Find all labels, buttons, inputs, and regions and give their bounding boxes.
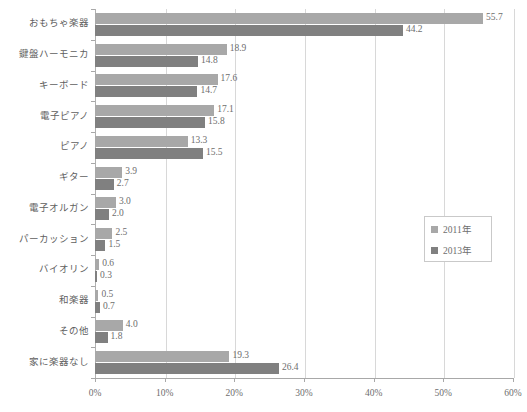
bar-value-label: 44.2 bbox=[406, 24, 423, 35]
x-axis-tick bbox=[374, 378, 375, 382]
x-axis-tick-label: 40% bbox=[354, 388, 394, 398]
bar-value-label: 17.1 bbox=[217, 104, 234, 115]
category-axis-tick bbox=[91, 347, 95, 348]
bar-value-label: 2.0 bbox=[112, 208, 124, 219]
gridline bbox=[235, 9, 236, 378]
category-label: 鍵盤ハーモニカ bbox=[1, 49, 89, 60]
x-axis-tick bbox=[304, 378, 305, 382]
bar-2011 bbox=[95, 197, 116, 208]
category-axis-tick bbox=[91, 163, 95, 164]
x-axis-tick-label: 10% bbox=[145, 388, 185, 398]
category-axis-tick bbox=[91, 317, 95, 318]
category-label: キーボード bbox=[1, 80, 89, 91]
category-label: 家に楽器なし bbox=[1, 357, 89, 368]
bar-value-label: 1.5 bbox=[108, 239, 120, 250]
x-axis-tick-label: 60% bbox=[493, 388, 527, 398]
x-axis-tick bbox=[513, 378, 514, 382]
bar-value-label: 0.3 bbox=[100, 270, 112, 281]
bar-2013 bbox=[95, 56, 198, 67]
bar-value-label: 2.7 bbox=[117, 178, 129, 189]
gridline bbox=[305, 9, 306, 378]
bar-value-label: 15.8 bbox=[208, 116, 225, 127]
bar-value-label: 13.3 bbox=[191, 135, 208, 146]
x-axis-tick bbox=[443, 378, 444, 382]
bar-value-label: 2.5 bbox=[115, 227, 127, 238]
bar-2013 bbox=[95, 148, 203, 159]
category-axis-tick bbox=[91, 101, 95, 102]
category-axis-tick bbox=[91, 9, 95, 10]
legend-item-2011: 2011年 bbox=[431, 223, 472, 235]
bar-2013 bbox=[95, 271, 97, 282]
x-axis-tick bbox=[165, 378, 166, 382]
bar-value-label: 15.5 bbox=[206, 147, 223, 158]
legend-item-2013: 2013年 bbox=[431, 244, 472, 256]
bar-2011 bbox=[95, 105, 214, 116]
bar-2013 bbox=[95, 25, 403, 36]
legend-swatch-2011-icon bbox=[431, 226, 438, 233]
bar-2013 bbox=[95, 363, 279, 374]
category-axis-tick bbox=[91, 71, 95, 72]
bar-value-label: 0.7 bbox=[103, 301, 115, 312]
x-axis-tick-label: 30% bbox=[284, 388, 324, 398]
category-label: バイオリン bbox=[1, 264, 89, 275]
category-axis-tick bbox=[91, 378, 95, 379]
category-axis-tick bbox=[91, 255, 95, 256]
bar-2011 bbox=[95, 320, 123, 331]
horizontal-bar-chart: 0%10%20%30%40%50%60% おもちゃ楽器鍵盤ハーモニカキーボード電… bbox=[0, 0, 527, 412]
bar-value-label: 0.5 bbox=[101, 289, 113, 300]
bar-value-label: 17.6 bbox=[221, 73, 238, 84]
bar-value-label: 14.7 bbox=[200, 85, 217, 96]
bar-value-label: 14.8 bbox=[201, 55, 218, 66]
x-axis-tick bbox=[95, 378, 96, 382]
gridline bbox=[375, 9, 376, 378]
category-axis-tick bbox=[91, 40, 95, 41]
legend-label-2011: 2011年 bbox=[443, 222, 472, 236]
bar-value-label: 3.9 bbox=[125, 166, 137, 177]
category-label: おもちゃ楽器 bbox=[1, 18, 89, 29]
bar-2011 bbox=[95, 259, 99, 270]
bar-value-label: 0.6 bbox=[102, 258, 114, 269]
bar-2013 bbox=[95, 332, 108, 343]
category-label: パーカッション bbox=[1, 234, 89, 245]
bar-value-label: 1.8 bbox=[111, 331, 123, 342]
gridline bbox=[444, 9, 445, 378]
bar-2013 bbox=[95, 209, 109, 220]
x-axis-tick-label: 20% bbox=[214, 388, 254, 398]
bar-2011 bbox=[95, 136, 188, 147]
bar-2013 bbox=[95, 86, 197, 97]
category-axis-tick bbox=[91, 224, 95, 225]
category-label: 電子オルガン bbox=[1, 203, 89, 214]
bar-value-label: 18.9 bbox=[230, 43, 247, 54]
x-axis-tick-label: 50% bbox=[423, 388, 463, 398]
x-axis-tick-label: 0% bbox=[75, 388, 115, 398]
bar-2011 bbox=[95, 290, 98, 301]
bar-2011 bbox=[95, 228, 112, 239]
bar-value-label: 26.4 bbox=[282, 362, 299, 373]
legend-label-2013: 2013年 bbox=[443, 243, 472, 257]
bar-2013 bbox=[95, 302, 100, 313]
category-axis-tick bbox=[91, 286, 95, 287]
legend-swatch-2013-icon bbox=[431, 247, 438, 254]
category-label: ギター bbox=[1, 172, 89, 183]
bar-2011 bbox=[95, 74, 218, 85]
bar-2013 bbox=[95, 117, 205, 128]
category-axis-tick bbox=[91, 132, 95, 133]
bar-2013 bbox=[95, 179, 114, 190]
bar-value-label: 55.7 bbox=[486, 12, 503, 23]
bar-2011 bbox=[95, 351, 229, 362]
bar-2011 bbox=[95, 44, 227, 55]
bar-2011 bbox=[95, 167, 122, 178]
bar-2011 bbox=[95, 13, 483, 24]
bar-2013 bbox=[95, 240, 105, 251]
bar-value-label: 3.0 bbox=[119, 196, 131, 207]
x-axis-tick bbox=[234, 378, 235, 382]
category-axis-tick bbox=[91, 194, 95, 195]
category-label: 和楽器 bbox=[1, 295, 89, 306]
bar-value-label: 4.0 bbox=[126, 319, 138, 330]
chart-legend: 2011年 2013年 bbox=[424, 216, 492, 262]
category-label: ピアノ bbox=[1, 141, 89, 152]
category-label: その他 bbox=[1, 326, 89, 337]
bar-value-label: 19.3 bbox=[232, 350, 249, 361]
category-label: 電子ピアノ bbox=[1, 111, 89, 122]
